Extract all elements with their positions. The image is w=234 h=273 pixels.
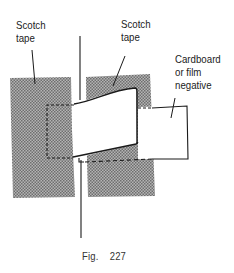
caption-number: 227 (110, 250, 126, 262)
caption-prefix: Fig. (82, 250, 98, 262)
figure-caption: Fig. 227 (82, 250, 126, 262)
label-line: negative (175, 79, 221, 92)
label-line: tape (16, 32, 46, 45)
label-cardboard-film-negative: Cardboard or film negative (175, 53, 221, 92)
film-negative-panel (138, 106, 188, 159)
label-line: tape (121, 31, 151, 44)
label-line: Scotch (16, 19, 46, 32)
label-line: Scotch (121, 18, 151, 31)
scotch-tape-left (10, 77, 75, 198)
label-line: or film (175, 66, 221, 79)
label-line: Cardboard (175, 53, 221, 66)
label-scotch-tape-right: Scotch tape (121, 18, 151, 44)
label-scotch-tape-left: Scotch tape (16, 19, 46, 45)
